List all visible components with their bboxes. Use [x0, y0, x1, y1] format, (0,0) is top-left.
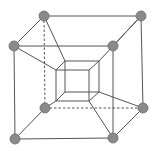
vertex-dot: [108, 133, 118, 143]
tesseract-diagram: Tesseract (hypercube) projection: [0, 0, 157, 151]
vertex-dot: [10, 134, 20, 144]
edge: [113, 108, 143, 138]
edge: [14, 46, 15, 139]
vertex-dot: [108, 41, 118, 51]
edge: [56, 92, 65, 101]
edge: [141, 16, 143, 108]
edge: [56, 61, 65, 70]
edge: [15, 138, 113, 139]
hidden-edge: [44, 16, 45, 108]
edge: [99, 92, 143, 108]
edge: [44, 16, 65, 61]
vertex-dot: [9, 41, 19, 51]
edge: [15, 108, 45, 139]
edge: [89, 92, 99, 101]
edge: [89, 101, 113, 138]
edge: [113, 16, 141, 46]
vertex-dot: [39, 11, 49, 21]
edge: [89, 61, 99, 70]
edge-group: [14, 16, 143, 139]
vertex-dot: [40, 103, 50, 113]
vertex-dot: [138, 103, 148, 113]
edge: [14, 46, 56, 70]
edge: [14, 16, 44, 46]
vertex-dot: [136, 11, 146, 21]
